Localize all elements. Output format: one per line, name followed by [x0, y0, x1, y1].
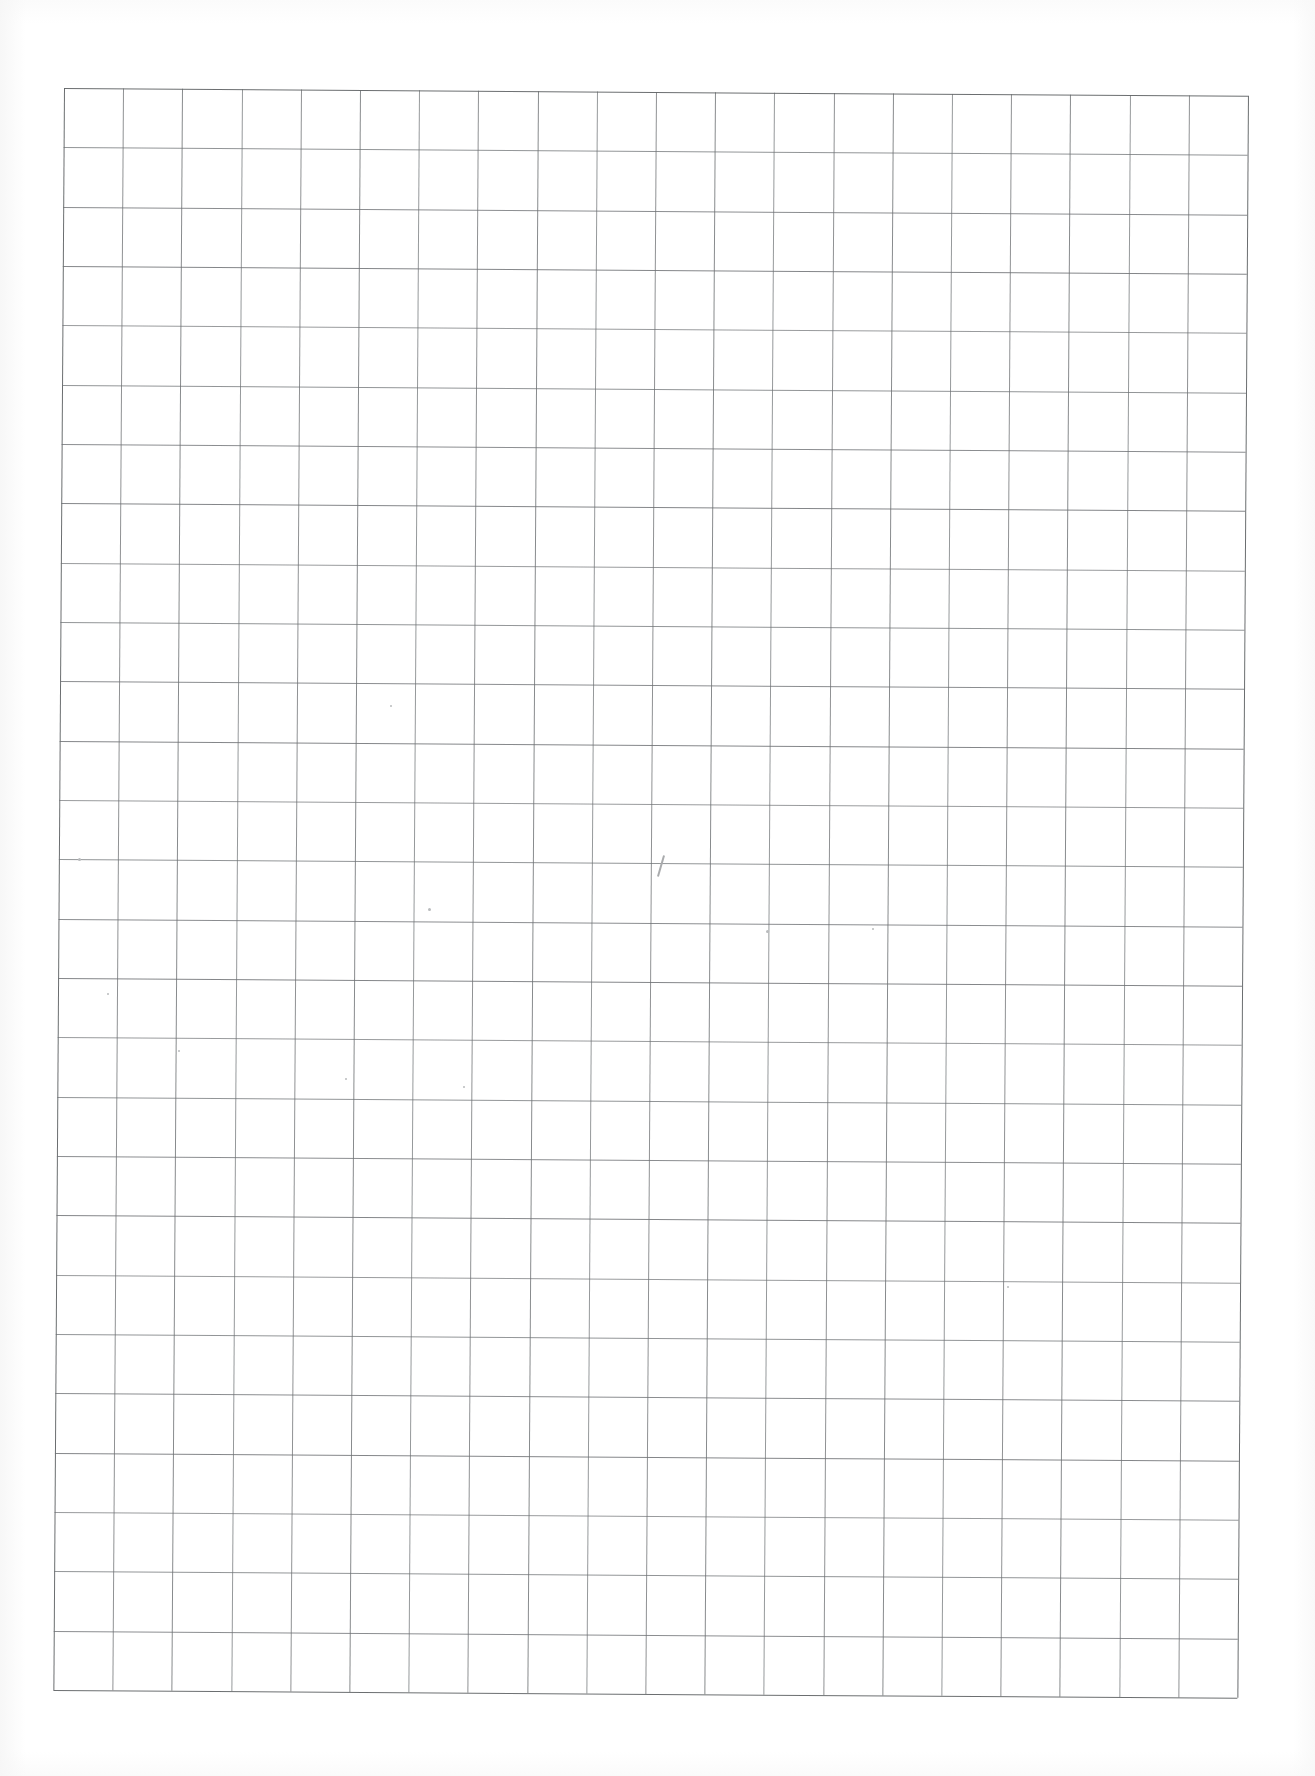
grid-line-vertical — [290, 90, 302, 1692]
grid-border-vertical — [1237, 96, 1249, 1698]
scanned-page: Blank graph paper sheet — [0, 0, 1315, 1776]
grid-line-vertical — [349, 90, 361, 1692]
page-title: Blank graph paper sheet — [0, 21, 1, 22]
grid-line-vertical — [704, 92, 716, 1694]
grid-line-vertical — [645, 92, 657, 1694]
grid-line-vertical — [823, 93, 835, 1695]
grid-line-vertical — [231, 89, 243, 1691]
grid-line-vertical — [527, 91, 539, 1693]
grid-border-vertical — [53, 88, 65, 1690]
grid-line-vertical — [408, 90, 420, 1692]
grid-line-vertical — [171, 89, 183, 1691]
grid-line-vertical — [1059, 95, 1071, 1697]
grid-line-vertical — [1178, 95, 1190, 1697]
grid-line-vertical — [586, 92, 598, 1694]
grid-line-vertical — [112, 88, 124, 1690]
grid-line-vertical — [467, 91, 479, 1693]
grid-line-vertical — [941, 94, 953, 1696]
grid-line-vertical — [1000, 94, 1012, 1696]
grid-line-vertical — [763, 93, 775, 1695]
graph-paper-grid — [53, 88, 1248, 1698]
grid-line-vertical — [1119, 95, 1131, 1697]
grid-line-vertical — [882, 93, 894, 1695]
grid-lines — [53, 88, 1248, 1698]
